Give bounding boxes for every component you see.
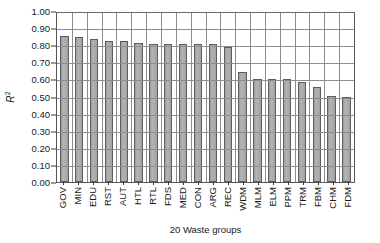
x-tick-cell: ARG bbox=[206, 185, 221, 225]
y-tick-label: 0.10 bbox=[18, 161, 50, 171]
x-tick-mark bbox=[78, 182, 79, 185]
x-tick-mark bbox=[318, 182, 319, 185]
x-tick-mark bbox=[153, 182, 154, 185]
category-separator bbox=[339, 13, 340, 182]
y-axis-tick-labels: 1.000.900.800.700.600.500.400.300.200.10… bbox=[18, 0, 50, 243]
category-separator bbox=[235, 13, 236, 182]
x-tick-cell: PPM bbox=[280, 185, 295, 225]
y-tick-mark bbox=[51, 12, 56, 13]
x-tick-mark bbox=[288, 182, 289, 185]
category-separator bbox=[206, 13, 207, 182]
x-axis-title: 20 Waste groups bbox=[56, 224, 355, 235]
x-tick-cell: EDU bbox=[86, 185, 101, 225]
x-tick-mark bbox=[348, 182, 349, 185]
y-tick-mark bbox=[51, 131, 56, 132]
x-tick-label: WDM bbox=[238, 187, 248, 211]
bar bbox=[327, 96, 335, 182]
x-tick-label: EDU bbox=[89, 187, 99, 207]
x-tick-label: FDM bbox=[343, 187, 353, 208]
y-tick-label: 0.40 bbox=[18, 110, 50, 120]
x-tick-label: REC bbox=[223, 187, 233, 207]
x-tick-label: CHM bbox=[328, 187, 338, 209]
x-tick-cell: GOV bbox=[56, 185, 71, 225]
x-tick-cell: RTL bbox=[146, 185, 161, 225]
x-tick-mark bbox=[213, 182, 214, 185]
bar bbox=[149, 44, 157, 182]
x-tick-label: FBM bbox=[313, 187, 323, 207]
x-tick-mark bbox=[258, 182, 259, 185]
y-tick-mark bbox=[51, 183, 56, 184]
x-tick-cell: ELM bbox=[265, 185, 280, 225]
bar bbox=[120, 41, 128, 182]
category-separator bbox=[220, 13, 221, 182]
x-tick-label: PPM bbox=[283, 187, 293, 208]
x-tick-label: ELM bbox=[268, 187, 278, 207]
x-tick-mark bbox=[93, 182, 94, 185]
x-tick-mark bbox=[168, 182, 169, 185]
x-tick-label: HTL bbox=[133, 187, 143, 205]
x-tick-cell: FDM bbox=[340, 185, 355, 225]
category-separator bbox=[280, 13, 281, 182]
x-tick-cell: MED bbox=[176, 185, 191, 225]
bar bbox=[105, 41, 113, 182]
plot-area bbox=[56, 12, 355, 183]
y-tick-mark bbox=[51, 165, 56, 166]
y-tick-mark bbox=[51, 63, 56, 64]
bar bbox=[90, 39, 98, 182]
y-tick-label: 1.00 bbox=[18, 7, 50, 17]
category-separator bbox=[102, 13, 103, 182]
y-tick-mark bbox=[51, 114, 56, 115]
x-tick-label: RST bbox=[104, 187, 114, 206]
category-separator bbox=[295, 13, 296, 182]
category-separator bbox=[250, 13, 251, 182]
x-tick-cell: FDS bbox=[161, 185, 176, 225]
x-tick-label: MED bbox=[178, 187, 188, 208]
bar bbox=[164, 44, 172, 182]
x-tick-cell: TRM bbox=[295, 185, 310, 225]
x-tick-label: CON bbox=[193, 187, 203, 208]
x-tick-label: ARG bbox=[208, 187, 218, 208]
bar bbox=[209, 44, 217, 182]
category-separator bbox=[265, 13, 266, 182]
y-tick-mark bbox=[51, 29, 56, 30]
bar bbox=[194, 44, 202, 182]
y-tick-mark bbox=[51, 46, 56, 47]
x-tick-label: GOV bbox=[59, 187, 69, 208]
x-tick-cell: CON bbox=[191, 185, 206, 225]
category-separator bbox=[324, 13, 325, 182]
x-tick-cell: CHM bbox=[325, 185, 340, 225]
x-tick-mark bbox=[108, 182, 109, 185]
category-separator bbox=[161, 13, 162, 182]
x-tick-mark bbox=[303, 182, 304, 185]
y-tick-label: 0.00 bbox=[18, 178, 50, 188]
x-tick-mark bbox=[243, 182, 244, 185]
x-tick-mark bbox=[273, 182, 274, 185]
x-tick-label: MLM bbox=[253, 187, 263, 208]
x-tick-cell: RST bbox=[101, 185, 116, 225]
category-separator bbox=[116, 13, 117, 182]
category-separator bbox=[131, 13, 132, 182]
y-tick-label: 0.60 bbox=[18, 76, 50, 86]
x-tick-mark bbox=[123, 182, 124, 185]
x-tick-label: RTL bbox=[148, 187, 158, 205]
y-tick-label: 0.50 bbox=[18, 93, 50, 103]
category-separator bbox=[191, 13, 192, 182]
category-separator bbox=[146, 13, 147, 182]
bar bbox=[75, 37, 83, 182]
x-tick-cell: REC bbox=[220, 185, 235, 225]
x-tick-cell: MIN bbox=[71, 185, 86, 225]
y-tick-label: 0.70 bbox=[18, 59, 50, 69]
y-tick-label: 0.90 bbox=[18, 24, 50, 34]
x-tick-cell: MLM bbox=[250, 185, 265, 225]
x-tick-mark bbox=[333, 182, 334, 185]
x-tick-cell: FBM bbox=[310, 185, 325, 225]
x-tick-label: AUT bbox=[119, 187, 129, 206]
x-tick-label: MIN bbox=[74, 187, 84, 204]
x-tick-mark bbox=[138, 182, 139, 185]
chart-figure: R2 1.000.900.800.700.600.500.400.300.200… bbox=[0, 0, 380, 243]
x-tick-cell: HTL bbox=[131, 185, 146, 225]
x-tick-cell: WDM bbox=[235, 185, 250, 225]
category-separator bbox=[309, 13, 310, 182]
x-tick-mark bbox=[228, 182, 229, 185]
bar bbox=[313, 87, 321, 182]
